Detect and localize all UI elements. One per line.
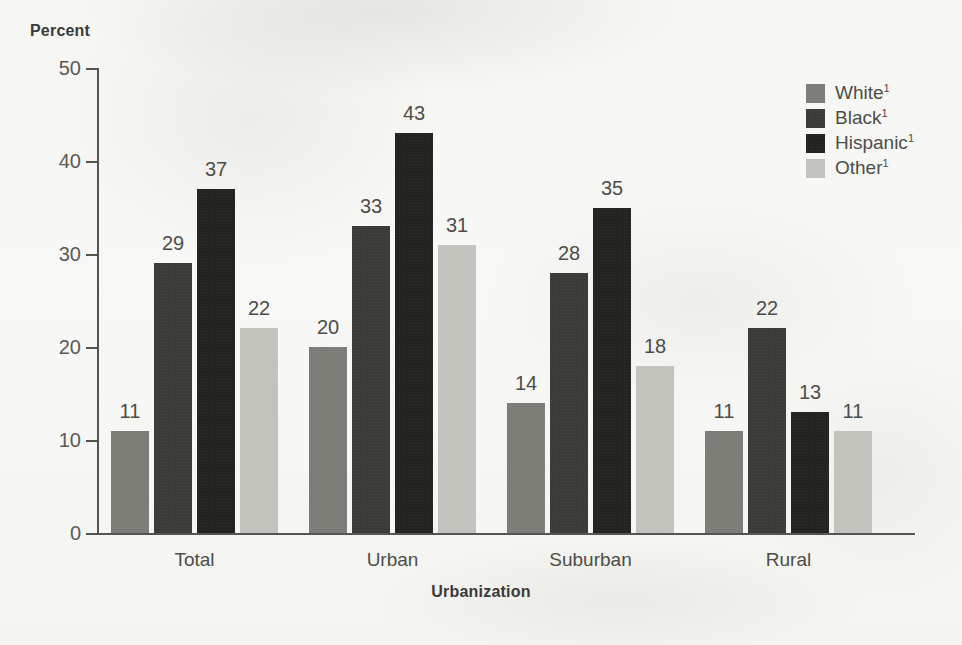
y-axis-tick [86,68,97,70]
bar-rect: 20 [309,347,347,533]
legend-swatch-icon [806,159,825,178]
bar-value-label: 22 [226,297,292,320]
y-axis-line [97,68,99,533]
bar-group-bars: 11293722 [111,68,278,533]
bar-rect: 13 [791,412,829,533]
x-axis-group-label: Suburban [491,549,691,571]
legend-item-label: Hispanic1 [835,132,914,154]
x-axis-group-label: Total [95,549,295,571]
legend-item-label: Other1 [835,157,889,179]
bar-other-urban[interactable]: 31 [438,68,476,533]
y-axis-tick-label: 50 [29,57,81,80]
bar-white-suburban[interactable]: 14 [507,68,545,533]
bar-rect: 35 [593,208,631,534]
bar-group-bars: 20334331 [309,68,476,533]
x-axis-group-label: Rural [689,549,889,571]
y-axis-tick [86,440,97,442]
bar-other-total[interactable]: 22 [240,68,278,533]
plot-area: 01020304050 11293722Total20334331Urban14… [97,60,915,541]
bar-rect: 33 [352,226,390,533]
bar-other-suburban[interactable]: 18 [636,68,674,533]
y-axis-tick [86,347,97,349]
y-axis-tick-label: 40 [29,150,81,173]
y-axis-tick [86,533,97,535]
x-axis-title: Urbanization [0,583,962,601]
bar-group-bars: 14283518 [507,68,674,533]
bar-rect: 22 [240,328,278,533]
bar-white-urban[interactable]: 20 [309,68,347,533]
y-axis-tick [86,254,97,256]
bar-rect: 11 [705,431,743,533]
bar-hispanic-urban[interactable]: 43 [395,68,433,533]
bar-rect: 11 [834,431,872,533]
bar-hispanic-suburban[interactable]: 35 [593,68,631,533]
bar-rect: 22 [748,328,786,533]
legend-footnote-marker: 1 [883,157,889,169]
y-axis-tick-label: 0 [29,522,81,545]
legend-swatch-icon [806,134,825,153]
y-axis-tick [86,161,97,163]
bar-black-total[interactable]: 29 [154,68,192,533]
x-axis-line [97,533,915,535]
x-axis-group-label: Urban [293,549,493,571]
bar-black-suburban[interactable]: 28 [550,68,588,533]
bar-value-label: 11 [820,400,886,423]
legend-item-label: White1 [835,82,890,104]
legend: White1Black1Hispanic1Other1 [806,82,914,182]
legend-item-black[interactable]: Black1 [806,107,914,129]
bar-rect: 14 [507,403,545,533]
bar-rect: 37 [197,189,235,533]
y-axis-tick-labels: 01020304050 [29,60,81,541]
legend-footnote-marker: 1 [908,132,914,144]
legend-footnote-marker: 1 [881,107,887,119]
bar-rect: 28 [550,273,588,533]
legend-item-white[interactable]: White1 [806,82,914,104]
legend-item-label: Black1 [835,107,888,129]
y-axis-title: Percent [30,22,90,40]
bar-rect: 43 [395,133,433,533]
bar-rect: 11 [111,431,149,533]
bar-rect: 31 [438,245,476,533]
legend-item-other[interactable]: Other1 [806,157,914,179]
bar-value-label: 18 [622,335,688,358]
y-axis-tick-label: 10 [29,429,81,452]
bar-black-urban[interactable]: 33 [352,68,390,533]
bar-chart: Percent 01020304050 11293722Total2033433… [0,0,962,645]
bar-rect: 29 [154,263,192,533]
legend-footnote-marker: 1 [884,82,890,94]
legend-swatch-icon [806,109,825,128]
bar-value-label: 31 [424,214,490,237]
bar-black-rural[interactable]: 22 [748,68,786,533]
legend-swatch-icon [806,84,825,103]
legend-item-hispanic[interactable]: Hispanic1 [806,132,914,154]
bar-white-total[interactable]: 11 [111,68,149,533]
y-axis-tick-label: 30 [29,243,81,266]
y-axis-tick-label: 20 [29,336,81,359]
bar-rect: 18 [636,366,674,533]
